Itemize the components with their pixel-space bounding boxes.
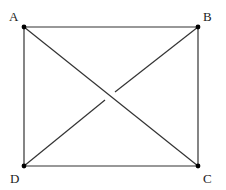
label-d: D [10, 171, 19, 186]
point-c [196, 164, 201, 169]
point-b [196, 25, 201, 30]
point-a [22, 25, 27, 30]
diagonal-bd-lower [24, 100, 105, 166]
label-c: C [203, 171, 212, 186]
diagonal-bd-upper [115, 27, 198, 92]
label-a: A [9, 9, 19, 24]
label-b: B [203, 9, 212, 24]
point-d [22, 164, 27, 169]
rectangle-diagram: A B C D [0, 0, 226, 190]
